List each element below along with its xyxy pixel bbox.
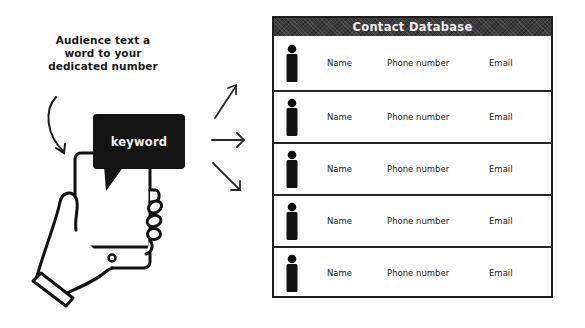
- email-cell: Email: [489, 58, 513, 68]
- arrow-right-icon: [212, 133, 244, 147]
- keyword-label: keyword: [93, 114, 185, 169]
- person-icon: [286, 150, 298, 188]
- phone-cell: Phone number: [387, 164, 449, 174]
- name-cell: Name: [327, 164, 352, 174]
- person-icon: [286, 98, 298, 136]
- table-row: Name Phone number Email: [274, 36, 551, 90]
- person-icon: [286, 44, 298, 82]
- phone-cell: Phone number: [387, 112, 449, 122]
- table-row: Name Phone number Email: [274, 90, 551, 142]
- person-icon: [286, 254, 298, 292]
- person-icon: [286, 202, 298, 240]
- phone-cell: Phone number: [387, 268, 449, 278]
- contact-database-table: Contact Database Name Phone number Email…: [272, 16, 553, 298]
- curved-arrow-icon: [48, 97, 65, 153]
- name-cell: Name: [327, 58, 352, 68]
- email-cell: Email: [489, 216, 513, 226]
- arrow-up-right-icon: [215, 85, 236, 118]
- table-row: Name Phone number Email: [274, 194, 551, 246]
- email-cell: Email: [489, 112, 513, 122]
- email-cell: Email: [489, 164, 513, 174]
- phone-cell: Phone number: [387, 216, 449, 226]
- table-row: Name Phone number Email: [274, 142, 551, 194]
- phone-cell: Phone number: [387, 58, 449, 68]
- name-cell: Name: [327, 268, 352, 278]
- table-row: Name Phone number Email: [274, 246, 551, 298]
- name-cell: Name: [327, 112, 352, 122]
- email-cell: Email: [489, 268, 513, 278]
- arrow-down-right-icon: [213, 163, 240, 190]
- table-title: Contact Database: [274, 18, 551, 36]
- name-cell: Name: [327, 216, 352, 226]
